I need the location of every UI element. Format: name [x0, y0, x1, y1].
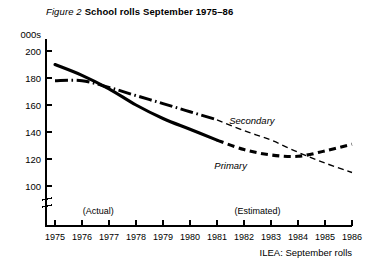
axis-break-mark: [42, 198, 52, 200]
x-tick-label: 1982: [234, 232, 254, 242]
x-axis: 1975197619771978197919801981198219831984…: [45, 220, 362, 242]
y-tick-label: 120: [25, 154, 41, 165]
phase-label: (Actual): [83, 206, 114, 216]
y-units-label: 000s: [20, 29, 41, 40]
x-tick-label: 1979: [153, 232, 173, 242]
x-tick-label: 1975: [45, 232, 65, 242]
line-primary-actual: [55, 65, 217, 141]
phase-label: (Estimated): [234, 206, 280, 216]
y-tick-label: 160: [25, 100, 41, 111]
axis-break-mark: [42, 205, 52, 207]
line-primary-estimated: [217, 140, 352, 156]
y-tick-label: 200: [25, 46, 41, 57]
x-tick-label: 1984: [288, 232, 308, 242]
data-series: [55, 65, 352, 173]
line-secondary-actual: [55, 80, 217, 120]
x-tick-label: 1978: [126, 232, 146, 242]
x-tick-label: 1986: [342, 232, 362, 242]
x-tick-label: 1980: [180, 232, 200, 242]
y-tick-label: 140: [25, 127, 41, 138]
series-label-primary: Primary: [214, 160, 248, 171]
x-tick-label: 1976: [72, 232, 92, 242]
y-tick-label: 100: [25, 181, 41, 192]
figure-container: Figure 2School rolls September 1975–86 0…: [0, 0, 367, 273]
x-tick-label: 1977: [99, 232, 119, 242]
x-tick-label: 1983: [261, 232, 281, 242]
y-tick-label: 180: [25, 73, 41, 84]
x-tick-label: 1985: [315, 232, 335, 242]
school-rolls-line-chart: 000s200180160140120100 19751976197719781…: [0, 0, 367, 273]
x-tick-label: 1981: [207, 232, 227, 242]
chart-annotations: (Actual)(Estimated)SecondaryPrimary: [83, 115, 281, 216]
series-label-secondary: Secondary: [229, 115, 276, 126]
